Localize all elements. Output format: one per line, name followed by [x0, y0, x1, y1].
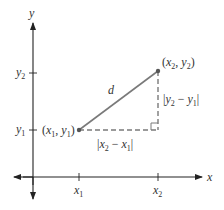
distance-segment — [79, 71, 158, 130]
x-axis-label: x — [206, 170, 213, 184]
point-2-dot — [156, 69, 160, 73]
y1-tick-label: y1 — [15, 122, 25, 138]
x2-tick-label: x2 — [152, 183, 162, 199]
distance-diagram: y x x1 x2 y2 y1 (x1, y1) (x2, y2) d |y2 … — [0, 0, 224, 210]
horizontal-difference-label: |x2 − x1| — [97, 137, 133, 153]
point-2-label: (x2, y2) — [162, 55, 195, 71]
y-axis-label: y — [28, 6, 35, 20]
x1-tick-label: x1 — [73, 183, 83, 199]
point-1-dot — [77, 128, 81, 132]
vertical-difference-label: |y2 − y1| — [163, 92, 199, 108]
point-1-label: (x1, y1) — [42, 123, 75, 139]
y2-tick-label: y2 — [15, 65, 25, 81]
right-angle-marker — [151, 123, 158, 130]
distance-label: d — [108, 83, 115, 97]
